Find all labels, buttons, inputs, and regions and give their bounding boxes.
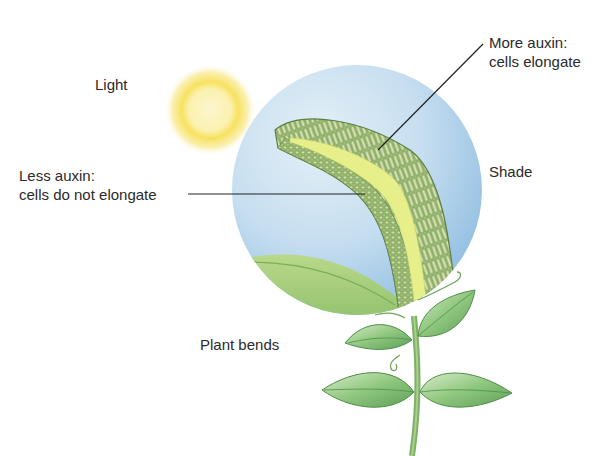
label-light: Light <box>95 75 128 94</box>
label-more-auxin: More auxin: cells elongate <box>489 33 581 71</box>
label-shade: Shade <box>489 162 532 181</box>
label-more-auxin-line1: More auxin: <box>489 33 581 52</box>
label-less-auxin-line1: Less auxin: <box>19 166 157 185</box>
label-more-auxin-line2: cells elongate <box>489 52 581 71</box>
label-less-auxin: Less auxin: cells do not elongate <box>19 166 157 204</box>
label-less-auxin-line2: cells do not elongate <box>19 185 157 204</box>
label-plant-bends: Plant bends <box>200 335 279 354</box>
magnified-view <box>220 65 482 330</box>
